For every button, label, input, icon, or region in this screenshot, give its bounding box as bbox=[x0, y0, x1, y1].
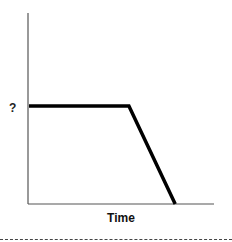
line-chart bbox=[0, 0, 232, 242]
x-axis-label: Time bbox=[0, 211, 232, 225]
y-axis-label: ? bbox=[9, 101, 16, 115]
data-line bbox=[29, 106, 175, 204]
dashed-divider bbox=[0, 239, 232, 240]
